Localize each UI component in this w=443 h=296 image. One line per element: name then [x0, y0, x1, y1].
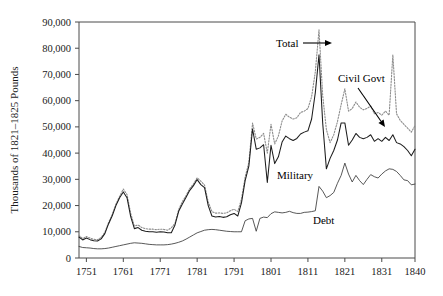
y-axis-title: Thousands of 1821–1825 Pounds [8, 67, 20, 214]
x-tick-label: 1771 [150, 266, 171, 277]
x-tick-label: 1840 [405, 266, 426, 277]
annotation-label-debt: Debt [313, 214, 334, 226]
x-tick-label: 1811 [298, 266, 319, 277]
annotation-arrowhead-total [325, 40, 332, 46]
y-axis-tick-group: 010,00020,00030,00040,00050,00060,00070,… [42, 17, 79, 264]
y-tick-label: 20,000 [42, 200, 71, 211]
x-tick-label: 1801 [261, 266, 282, 277]
x-tick-label: 1751 [76, 266, 97, 277]
x-tick-label: 1821 [334, 266, 355, 277]
y-tick-label: 10,000 [42, 226, 71, 237]
x-tick-label: 1831 [371, 266, 392, 277]
x-tick-label: 1791 [224, 266, 245, 277]
x-tick-label: 1781 [187, 266, 208, 277]
x-tick-label: 1761 [113, 266, 134, 277]
annotation-label-total: Total [276, 37, 298, 49]
y-tick-label: 30,000 [42, 174, 71, 185]
y-tick-label: 40,000 [42, 148, 71, 159]
x-axis-tick-group: 1751176117711781179118011811182118311840 [76, 258, 426, 277]
annotation-label-civil-govt: Civil Govt [338, 72, 385, 84]
y-tick-label: 60,000 [42, 95, 71, 106]
y-tick-label: 90,000 [42, 17, 71, 28]
expenditure-line-chart: 010,00020,00030,00040,00050,00060,00070,… [0, 0, 443, 296]
y-tick-label: 0 [66, 253, 71, 264]
y-tick-label: 50,000 [42, 121, 71, 132]
y-tick-label: 70,000 [42, 69, 71, 80]
annotation-arrowhead-civil-govt [378, 119, 385, 127]
annotation-arrow-civil-govt [358, 88, 381, 121]
chart-figure: 010,00020,00030,00040,00050,00060,00070,… [0, 0, 443, 296]
annotation-group: TotalCivil GovtMilitaryDebt [276, 37, 385, 226]
y-tick-label: 80,000 [42, 43, 71, 54]
annotation-label-military: Military [277, 169, 314, 181]
